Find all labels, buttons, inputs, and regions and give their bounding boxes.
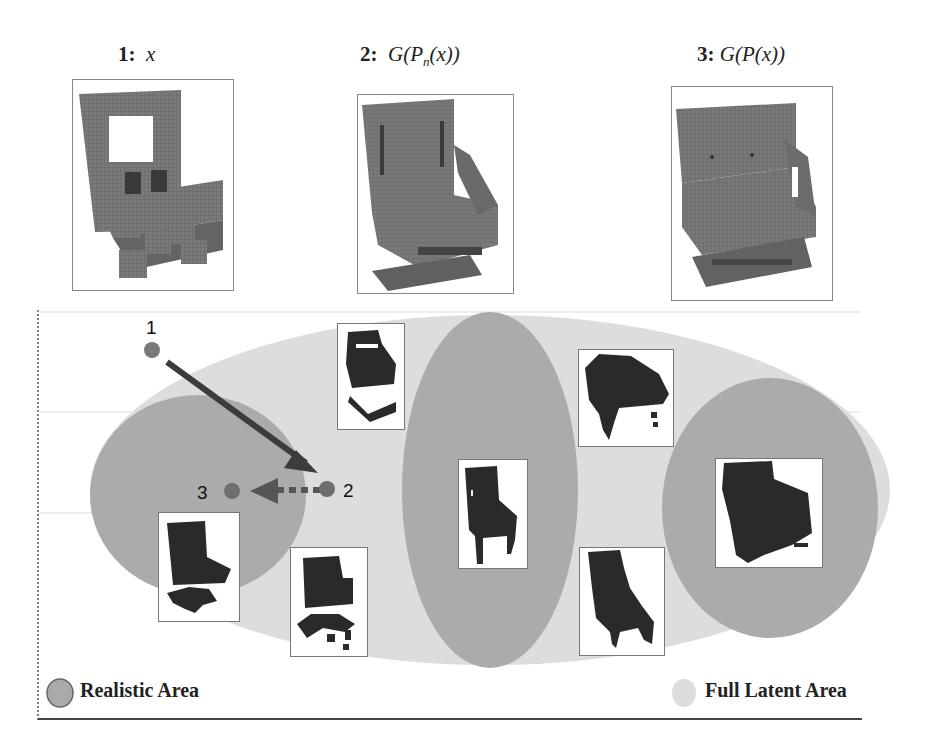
latent-point-3-label: 3 [197,482,208,503]
latent-point-2 [319,481,335,497]
panel-3-formula: G(P(x)) [720,42,785,66]
full-latent-area-legend-swatch [664,675,704,715]
voxel-chair-input-icon [73,80,233,290]
panel-2-formula-post: (x)) [430,42,460,66]
panel-2-index: 2: [360,42,378,66]
panel-2-formula-pre: G(P [388,42,423,66]
sample-thumbnail-noisy-office-chair [290,547,368,657]
panel-3-image [671,86,833,301]
panel-3-title: 3: G(P(x)) [697,42,785,67]
panel-1-image [72,79,234,291]
panel-1-title: 1: x [118,42,155,67]
voxel-chair-noisy-projection-icon [358,95,513,293]
chair-icon [459,460,527,568]
panel-1-formula: x [146,42,155,66]
latent-point-2-label: 2 [343,480,354,501]
chair-icon [716,459,822,567]
panel-2-title: 2: G(Pn(x)) [360,42,460,70]
chair-icon [580,548,664,655]
voxel-chair-projection-icon [672,87,832,300]
latent-point-3 [224,483,240,499]
panel-3-index: 3: [697,42,715,66]
sample-thumbnail-noisy-lounge-chair [579,547,665,656]
chair-icon [338,324,404,429]
chair-icon [159,513,239,621]
sample-thumbnail-sofa-chair [715,458,823,568]
latent-point-1 [144,342,160,358]
chair-icon [291,548,367,656]
full-latent-area-legend-label: Full Latent Area [705,679,847,702]
panel-1-index: 1: [118,42,136,66]
sample-thumbnail-office-chair-left [158,512,240,622]
sample-thumbnail-noisy-armchair [578,349,674,447]
sample-thumbnail-broken-chair [337,323,405,430]
realistic-area-legend-label: Realistic Area [80,679,199,702]
chair-icon [579,350,673,446]
bottom-rule [38,718,862,720]
realistic-area-legend-swatch [38,675,78,715]
latent-point-1-label: 1 [146,317,157,338]
sample-thumbnail-side-chair [458,459,528,569]
panel-2-image [357,94,514,294]
